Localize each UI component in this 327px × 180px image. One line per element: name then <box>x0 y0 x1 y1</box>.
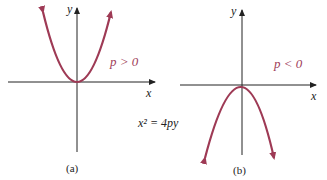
equation-label: x² = 4py <box>138 116 178 131</box>
caption-b: (b) <box>233 164 246 176</box>
x-axis-label-b: x <box>311 89 316 104</box>
parabola-diagram <box>0 0 327 180</box>
y-axis-label-b: y <box>231 4 236 19</box>
condition-label-a: p > 0 <box>110 54 138 70</box>
y-axis-label-a: y <box>67 2 72 17</box>
panel-b <box>180 10 316 158</box>
panel-a <box>8 8 155 152</box>
parabola-down-curve <box>205 87 274 158</box>
caption-a: (a) <box>66 162 78 174</box>
x-axis-label-a: x <box>146 86 151 101</box>
condition-label-b: p < 0 <box>274 56 302 72</box>
